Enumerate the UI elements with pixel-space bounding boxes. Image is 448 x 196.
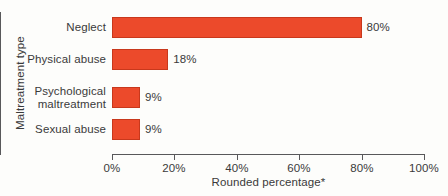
bar-value-psychological-maltreatment: 9% xyxy=(145,91,162,103)
x-axis-line xyxy=(112,154,425,155)
y-axis-tick-label-psychological-maltreatment: Psychological maltreatment xyxy=(0,85,106,111)
bar-value-sexual-abuse: 9% xyxy=(145,123,162,135)
y-axis-tick-label-sexual-abuse: Sexual abuse xyxy=(0,123,106,136)
x-axis-tick-100 xyxy=(424,155,425,160)
x-axis-tick-label-40: 40% xyxy=(225,162,248,174)
x-axis-tick-label-60: 60% xyxy=(287,162,310,174)
x-axis-tick-60 xyxy=(299,155,300,160)
bar-chart: Maltreatment type Neglect Physical abuse… xyxy=(0,0,448,196)
x-axis-tick-80 xyxy=(362,155,363,160)
bar-value-neglect: 80% xyxy=(367,21,390,33)
y-axis-tick-label-physical-abuse: Physical abuse xyxy=(0,53,106,66)
x-axis-title: Rounded percentage* xyxy=(112,176,425,188)
bar-neglect[interactable] xyxy=(112,17,362,38)
x-axis-tick-label-20: 20% xyxy=(162,162,185,174)
bar-physical-abuse[interactable] xyxy=(112,49,168,70)
y-axis-line xyxy=(0,12,1,155)
x-axis-tick-label-80: 80% xyxy=(350,162,373,174)
bar-value-physical-abuse: 18% xyxy=(173,53,196,65)
x-axis-tick-20 xyxy=(174,155,175,160)
x-axis-tick-label-0: 0% xyxy=(104,162,121,174)
x-axis-tick-0 xyxy=(112,155,113,160)
x-axis-tick-label-100: 100% xyxy=(409,162,439,174)
y-axis-tick-label-neglect: Neglect xyxy=(0,21,106,34)
bar-sexual-abuse[interactable] xyxy=(112,119,140,140)
bar-psychological-maltreatment[interactable] xyxy=(112,87,140,108)
x-axis-tick-40 xyxy=(237,155,238,160)
